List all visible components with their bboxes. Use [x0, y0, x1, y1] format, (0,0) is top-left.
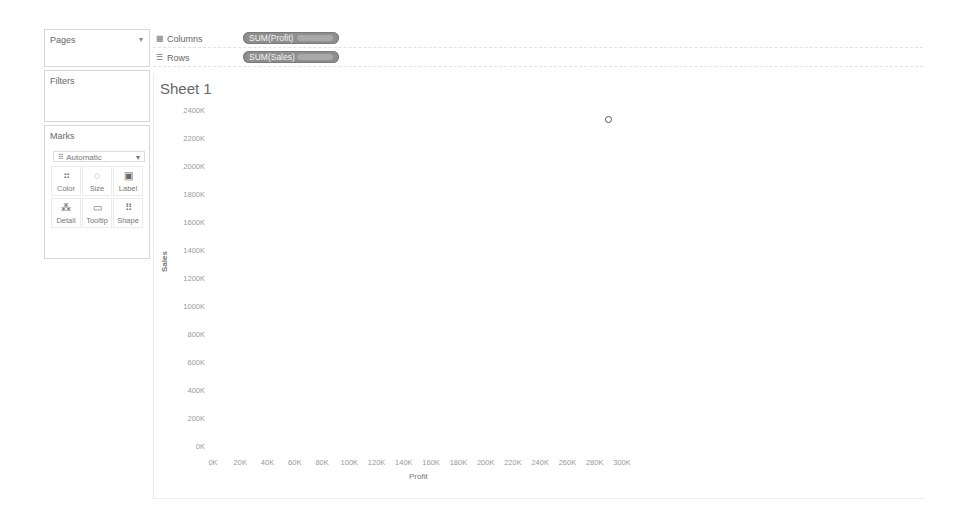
y-tick-label: 2000K — [155, 162, 205, 171]
x-tick-label: 220K — [498, 458, 528, 467]
y-tick-label: 1600K — [155, 218, 205, 227]
y-tick-label: 0K — [155, 442, 205, 451]
x-tick-label: 260K — [552, 458, 582, 467]
x-tick-label: 240K — [525, 458, 555, 467]
y-tick-label: 600K — [155, 358, 205, 367]
y-axis-title: Sales — [160, 251, 169, 272]
x-tick-label: 60K — [280, 458, 310, 467]
x-tick-label: 280K — [580, 458, 610, 467]
data-point-mark[interactable] — [605, 116, 612, 123]
x-tick-label: 200K — [471, 458, 501, 467]
x-axis-title: Profit — [409, 472, 428, 481]
y-tick-label: 800K — [155, 330, 205, 339]
x-tick-label: 160K — [416, 458, 446, 467]
x-tick-label: 40K — [253, 458, 283, 467]
x-tick-label: 120K — [362, 458, 392, 467]
x-tick-label: 100K — [334, 458, 364, 467]
x-tick-label: 0K — [198, 458, 228, 467]
scatter-chart: 0K200K400K600K800K1000K1200K1400K1600K18… — [0, 0, 965, 524]
x-tick-label: 180K — [443, 458, 473, 467]
y-tick-label: 2400K — [155, 106, 205, 115]
y-tick-label: 2200K — [155, 134, 205, 143]
y-tick-label: 1200K — [155, 274, 205, 283]
y-tick-label: 200K — [155, 414, 205, 423]
x-tick-label: 80K — [307, 458, 337, 467]
y-tick-label: 1000K — [155, 302, 205, 311]
x-tick-label: 20K — [225, 458, 255, 467]
y-tick-label: 400K — [155, 386, 205, 395]
x-tick-label: 140K — [389, 458, 419, 467]
x-tick-label: 300K — [607, 458, 637, 467]
y-tick-label: 1800K — [155, 190, 205, 199]
